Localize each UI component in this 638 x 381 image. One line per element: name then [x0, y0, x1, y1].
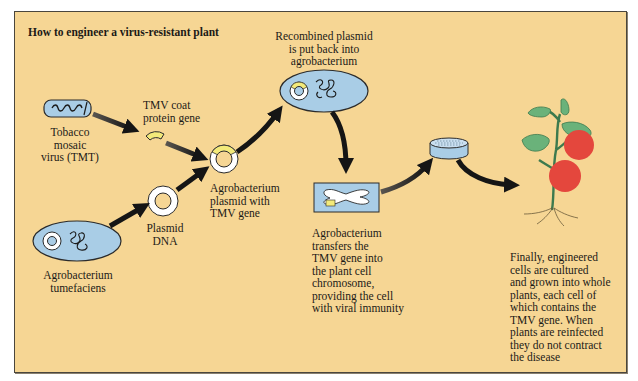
label-reinsert: Recombined plasmid is put back into agro… — [268, 30, 380, 68]
arrow-recombinant-to-bacterium — [237, 112, 278, 152]
label-plasmid: Plasmid DNA — [140, 222, 190, 247]
petri-dish-icon — [430, 138, 468, 159]
arrow-bacterium-to-chromosome — [332, 112, 346, 166]
arrow-dish-to-plant — [458, 160, 512, 185]
chromosome-icon — [314, 183, 379, 212]
bacterium-cell-icon — [280, 70, 368, 112]
bacterium-cell-icon — [33, 221, 121, 261]
label-recombinant-plasmid: Agrobacterium plasmid with TMV gene — [210, 182, 300, 220]
label-transfer: Agrobacterium transfers the TMV gene int… — [312, 227, 412, 315]
label-agrobacterium: Agrobacterium tumefaciens — [30, 269, 126, 294]
label-plant: Finally, engineered cells are cultured a… — [510, 251, 622, 364]
arrow-gene-to-plasmid — [166, 143, 201, 157]
tomato-plant-icon — [522, 99, 594, 226]
diagram-title: How to engineer a virus-resistant plant — [28, 26, 219, 38]
arrow-bacterium-to-plasmid — [110, 207, 143, 226]
label-coat-gene: TMV coat protein gene — [143, 99, 233, 124]
gene-fragment-icon — [146, 132, 164, 140]
label-virus: Tobacco mosaic virus (TMT) — [30, 126, 110, 164]
arrow-plasmid-to-recombinant — [177, 171, 203, 190]
recombinant-plasmid-icon — [210, 145, 238, 173]
virus-rod-icon — [44, 100, 91, 117]
arrow-chromosome-to-dish — [381, 164, 428, 192]
plasmid-ring-icon — [148, 186, 178, 216]
